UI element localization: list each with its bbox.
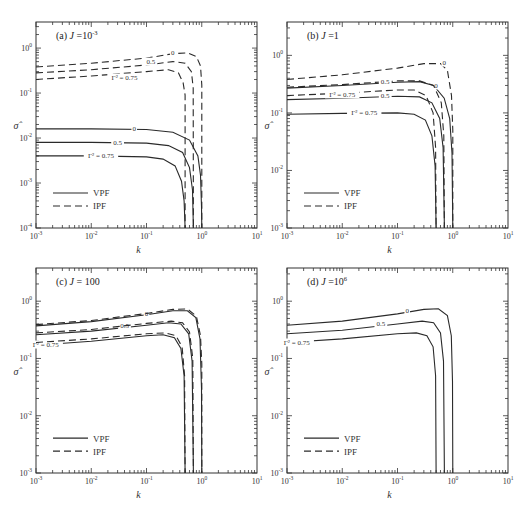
x-tick-label: 101 (503, 230, 514, 241)
legend-label: VPF (344, 434, 361, 444)
y-tick-label: 10-1 (19, 87, 32, 98)
plot-frame (36, 22, 257, 228)
x-tick-label: 10-3 (281, 230, 294, 241)
legend-label: VPF (93, 188, 110, 198)
x-tick-label: 100 (196, 230, 207, 241)
panel-title: (b) J =1 (307, 30, 339, 42)
curve-label: Γ² = 0.75 (284, 339, 310, 347)
legend-label: IPF (93, 447, 106, 457)
curve-label: 0 (434, 82, 438, 90)
legend-label: VPF (93, 434, 110, 444)
panel-title: (c) J = 100 (56, 276, 100, 288)
x-tick-label: 10-2 (336, 230, 349, 241)
x-axis-label: k (136, 489, 141, 500)
curve-label: 0 (171, 49, 175, 57)
x-tick-label: 10-1 (140, 475, 153, 486)
x-tick-label: 10-3 (30, 475, 43, 486)
y-tick-label: 100 (21, 42, 32, 53)
curve-label: 0.5 (381, 92, 390, 100)
x-tick-label: 10-1 (140, 230, 153, 241)
y-tick-label: 10-2 (270, 410, 283, 421)
panel-a: 10-310-210-110010110010-110-210-310-4kσ̂… (14, 22, 263, 255)
y-tick-label: 100 (272, 295, 283, 306)
curve-label: 0 (442, 59, 446, 67)
y-axis-label: σ̂ (265, 366, 274, 377)
plot-frame (287, 268, 508, 473)
y-tick-label: 100 (272, 49, 283, 60)
vpf-curve (36, 311, 202, 473)
y-axis-label: σ̂ (14, 120, 23, 131)
x-tick-label: 100 (447, 475, 458, 486)
curve-label: Γ² = 0.75 (112, 74, 138, 82)
ipf-curve (287, 64, 453, 228)
x-tick-label: 10-1 (391, 475, 404, 486)
x-axis-label: k (387, 244, 392, 255)
panel-title: (a) J =10-3 (56, 29, 98, 42)
legend-label: IPF (344, 201, 357, 211)
panel-d: 10-310-210-110010110010-110-210-3kσ̂(d) … (265, 268, 514, 500)
y-tick-label: 100 (21, 295, 32, 306)
y-tick-label: 10-3 (19, 177, 32, 188)
x-axis-label: k (387, 489, 392, 500)
x-tick-label: 101 (252, 230, 263, 241)
x-tick-label: 10-3 (30, 230, 43, 241)
vpf-curve (287, 333, 436, 473)
x-tick-label: 10-2 (85, 230, 98, 241)
curve-label: Γ² = 0.75 (88, 152, 114, 160)
vpf-curve (287, 309, 453, 473)
figure: 10-310-210-110010110010-110-210-310-4kσ̂… (0, 0, 522, 512)
ipf-curve (36, 70, 185, 228)
curve-label: 0.5 (381, 78, 390, 86)
vpf-curve (287, 82, 453, 228)
x-tick-label: 100 (196, 475, 207, 486)
curve-label: Γ² = 0.75 (351, 109, 377, 117)
curve-label: 0 (145, 310, 149, 318)
curve-label: 0.5 (146, 58, 155, 66)
legend-label: VPF (344, 188, 361, 198)
curve-label: 0 (132, 125, 136, 133)
vpf-curve (287, 113, 436, 228)
legend-label: IPF (344, 447, 357, 457)
curve-label: 0.5 (113, 139, 122, 147)
y-tick-label: 10-2 (19, 410, 32, 421)
vpf-curve (36, 156, 185, 228)
x-tick-label: 10-2 (336, 475, 349, 486)
legend-label: IPF (93, 201, 106, 211)
plot-frame (36, 268, 257, 473)
y-axis-label: σ̂ (14, 366, 23, 377)
panel-c: 10-310-210-110010110010-110-210-3kσ̂(c) … (14, 268, 263, 500)
panel-title: (d) J =106 (307, 275, 348, 288)
x-tick-label: 101 (252, 475, 263, 486)
x-tick-label: 101 (503, 475, 514, 486)
y-tick-label: 10-2 (19, 132, 32, 143)
x-tick-label: 10-1 (391, 230, 404, 241)
curve-label: 0 (405, 307, 409, 315)
panel-b: 10-310-210-110010110010-110-210-3kσ̂(b) … (265, 22, 514, 255)
y-tick-label: 10-2 (270, 164, 283, 175)
ipf-curve (36, 333, 185, 473)
y-axis-label: σ̂ (265, 120, 274, 131)
y-tick-label: 10-1 (19, 352, 32, 363)
curve-label: Γ² = 0.75 (329, 91, 355, 99)
x-axis-label: k (136, 244, 141, 255)
plot-frame (287, 22, 508, 228)
x-tick-label: 10-3 (281, 475, 294, 486)
y-tick-label: 10-1 (270, 352, 283, 363)
vpf-curve (36, 335, 185, 473)
x-tick-label: 100 (447, 230, 458, 241)
y-tick-label: 10-1 (270, 107, 283, 118)
x-tick-label: 10-2 (85, 475, 98, 486)
curve-label: 0.5 (376, 320, 385, 328)
